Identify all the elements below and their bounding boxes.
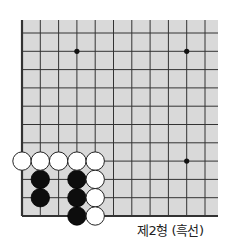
white-stone: [86, 170, 104, 188]
white-stone: [49, 152, 67, 170]
star-point: [184, 49, 189, 54]
black-stone: [31, 189, 49, 207]
black-stone: [68, 170, 86, 188]
black-stone: [68, 189, 86, 207]
black-stone: [31, 170, 49, 188]
star-point: [74, 49, 79, 54]
white-stone: [86, 207, 104, 225]
board-surface: [22, 20, 218, 216]
white-stone: [68, 152, 86, 170]
star-point: [184, 159, 189, 164]
white-stone: [86, 152, 104, 170]
white-stone: [86, 189, 104, 207]
white-stone: [13, 152, 31, 170]
black-stone: [68, 207, 86, 225]
white-stone: [31, 152, 49, 170]
go-board-diagram: [0, 0, 230, 242]
diagram-caption: 제2형 (흑선): [137, 220, 204, 239]
